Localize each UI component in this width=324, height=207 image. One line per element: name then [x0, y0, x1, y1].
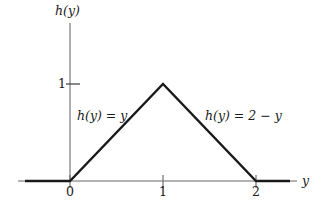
annotation-equation-right: h(y) = 2 − y	[205, 110, 282, 123]
y-axis-label: h(y)	[55, 5, 80, 18]
x-tick-label-1: 1	[159, 186, 167, 199]
x-tick-label-0: 0	[66, 186, 74, 199]
figure-canvas: h(y) y 1 0 1 2 h(y) = y h(y) = 2 − y	[0, 0, 324, 207]
x-tick-label-2: 2	[252, 186, 260, 199]
plot-area	[0, 0, 324, 207]
x-axis-label: y	[302, 175, 309, 188]
function-curve-h	[25, 84, 290, 181]
y-tick-label-1: 1	[58, 78, 66, 91]
annotation-equation-left: h(y) = y	[77, 110, 127, 123]
